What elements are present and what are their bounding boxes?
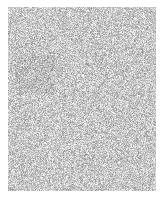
image-canvas-stage: [0, 0, 163, 205]
random-noise-patch: [8, 7, 156, 191]
